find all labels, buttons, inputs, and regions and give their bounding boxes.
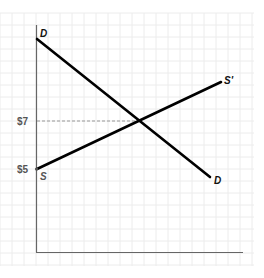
supply-end-label: S': [224, 76, 233, 86]
demand-start-label: D: [40, 29, 47, 39]
supply-start-label: S: [40, 172, 47, 182]
demand-end-label: D: [214, 176, 221, 186]
grid: [0, 13, 254, 266]
price-5-point: [35, 167, 38, 170]
supply-curve: [37, 82, 221, 169]
price-7-label: $7: [17, 117, 28, 127]
price-5-label: $5: [17, 165, 28, 175]
supply-demand-diagram: [0, 0, 264, 278]
